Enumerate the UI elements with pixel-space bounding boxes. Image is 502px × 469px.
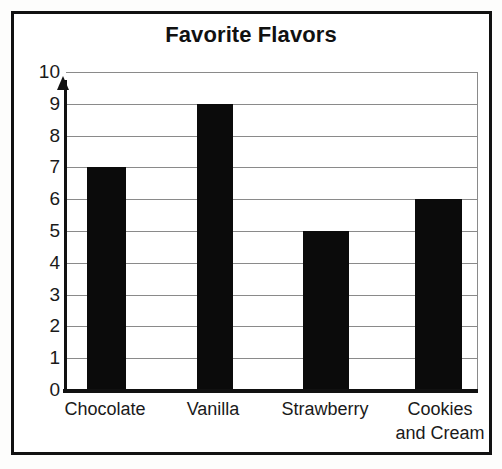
y-tick-label-8: 8	[20, 126, 60, 145]
chart-page: Favorite Flavors 109876543210 ChocolateV…	[0, 0, 502, 469]
plot-area	[66, 72, 478, 390]
gridline-9	[66, 104, 478, 105]
gridline-7	[66, 167, 478, 168]
y-tick-label-2: 2	[20, 316, 60, 335]
bar-3	[415, 199, 462, 390]
y-axis-line	[64, 80, 67, 390]
x-axis-line	[63, 389, 478, 393]
bar-1	[197, 104, 233, 390]
y-tick-label-5: 5	[20, 221, 60, 240]
chart-title: Favorite Flavors	[0, 22, 502, 48]
x-axis-tick-labels: ChocolateVanillaStrawberryCookies and Cr…	[0, 397, 502, 457]
y-tick-label-7: 7	[20, 157, 60, 176]
bar-2	[303, 231, 349, 390]
bar-0	[87, 167, 126, 390]
y-tick-label-3: 3	[20, 285, 60, 304]
y-tick-label-1: 1	[20, 348, 60, 367]
y-axis-arrow-icon	[57, 76, 69, 90]
y-tick-label-6: 6	[20, 189, 60, 208]
y-tick-label-10: 10	[20, 62, 60, 81]
y-tick-label-9: 9	[20, 94, 60, 113]
gridline-8	[66, 136, 478, 137]
x-tick-label-3: Cookies and Cream	[370, 397, 502, 446]
gridline-10	[66, 72, 478, 73]
y-tick-label-4: 4	[20, 253, 60, 272]
